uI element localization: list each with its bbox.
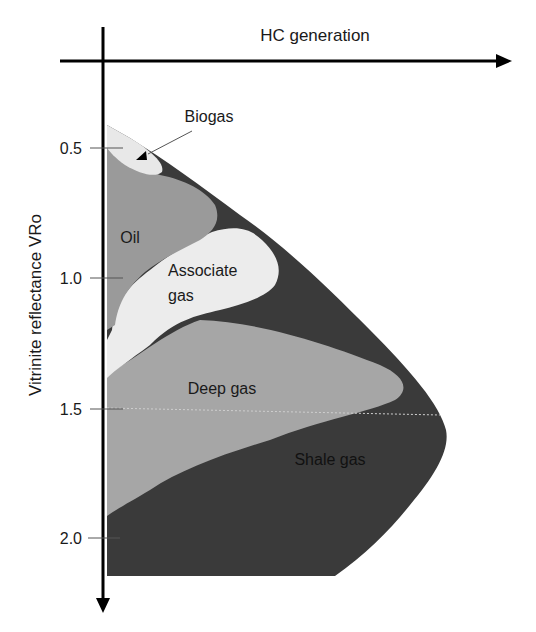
- tick-label-1-5: 1.5: [60, 401, 82, 418]
- x-axis-arrow-icon: [496, 54, 512, 68]
- x-axis-title: HC generation: [260, 26, 370, 45]
- biogas-pointer-line: [148, 131, 192, 154]
- label-associate-gas-line2: gas: [168, 287, 194, 304]
- label-biogas: Biogas: [185, 108, 234, 125]
- label-associate-gas-line1: Associate: [168, 262, 237, 279]
- hc-generation-diagram: 0.5 1.0 1.5 2.0 HC generation Vitrinite …: [0, 0, 536, 632]
- tick-label-1-0: 1.0: [60, 270, 82, 287]
- tick-label-2-0: 2.0: [60, 530, 82, 547]
- tick-label-0-5: 0.5: [60, 140, 82, 157]
- y-axis-arrow-icon: [96, 598, 110, 613]
- label-oil: Oil: [120, 229, 140, 246]
- y-axis-title: Vitrinite reflectance VRo: [26, 214, 45, 396]
- label-deep-gas: Deep gas: [188, 380, 257, 397]
- label-shale-gas: Shale gas: [294, 451, 365, 468]
